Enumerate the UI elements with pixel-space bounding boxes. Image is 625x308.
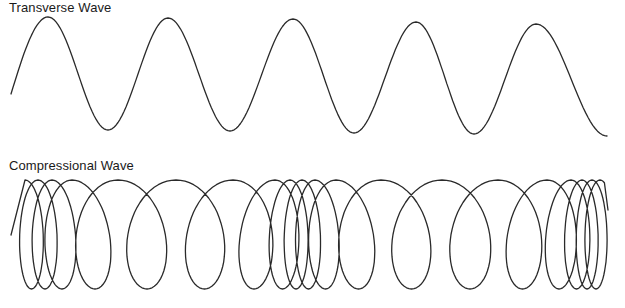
transverse-wave-curve [11,17,607,136]
wave-diagram [0,0,625,308]
compressional-wave-coil [11,180,608,289]
